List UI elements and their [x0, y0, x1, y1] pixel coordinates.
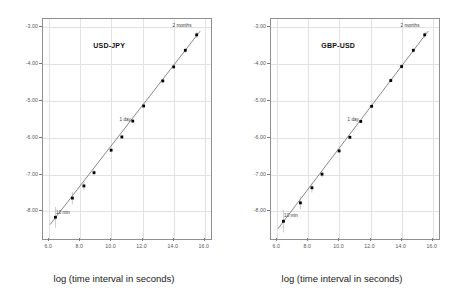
gridline-horizontal [271, 101, 439, 102]
y-tick-mark [267, 174, 270, 175]
data-point-marker [389, 79, 392, 82]
gridline-vertical [49, 19, 50, 239]
panel-title-gbp-usd: GBP-USD [321, 42, 355, 49]
y-tick-label: -3.00 [14, 23, 38, 29]
y-tick-mark [267, 100, 270, 101]
x-tick-mark [432, 238, 433, 241]
data-point-marker [71, 197, 74, 200]
y-tick-mark [39, 210, 42, 211]
x-axis-title-gbp-usd: log (time interval in seconds) [228, 273, 456, 284]
y-tick-label: -7.00 [14, 171, 38, 177]
y-tick-mark [39, 100, 42, 101]
gridline-horizontal [43, 101, 211, 102]
annotation-label: 10 min [284, 212, 298, 217]
y-tick-label: -8.00 [14, 207, 38, 213]
y-tick-label: -3.00 [242, 23, 266, 29]
x-tick-mark [48, 238, 49, 241]
gridline-vertical [205, 19, 206, 239]
gridline-horizontal [271, 138, 439, 139]
data-point-marker [83, 185, 86, 188]
x-tick-label: 14.0 [395, 243, 406, 249]
x-tick-label: 16.0 [199, 243, 210, 249]
annotation-label: 1 day [348, 117, 359, 122]
data-point-marker [282, 220, 285, 223]
gridline-vertical [80, 19, 81, 239]
gridline-horizontal [43, 175, 211, 176]
panel-title-usd-jpy: USD-JPY [93, 42, 125, 49]
data-point-marker [195, 33, 198, 36]
y-tick-mark [39, 26, 42, 27]
fit-line [50, 31, 200, 224]
y-tick-mark [39, 174, 42, 175]
gridline-vertical [143, 19, 144, 239]
data-series-layer [43, 19, 211, 239]
data-point-marker [54, 216, 57, 219]
data-series-layer [271, 19, 439, 239]
y-tick-label: -4.00 [14, 60, 38, 66]
data-point-marker [359, 120, 362, 123]
gridline-vertical [111, 19, 112, 239]
y-tick-label: -4.00 [242, 60, 266, 66]
y-tick-label: -6.00 [242, 134, 266, 140]
data-point-marker [423, 33, 426, 36]
y-tick-label: -7.00 [242, 171, 266, 177]
x-tick-label: 8.0 [76, 243, 84, 249]
x-tick-mark [173, 238, 174, 241]
x-tick-label: 6.0 [44, 243, 52, 249]
y-tick-mark [267, 63, 270, 64]
gridline-vertical [371, 19, 372, 239]
data-point-marker [161, 80, 164, 83]
x-tick-label: 12.0 [364, 243, 375, 249]
annotation-label: 10 min [56, 209, 70, 214]
y-tick-mark [39, 63, 42, 64]
data-point-marker [184, 49, 187, 52]
chart-panel-usd-jpy: USD-JPY log (time interval in seconds) 6… [0, 0, 228, 292]
chart-panel-gbp-usd: GBP-USD log (time interval in seconds) 6… [228, 0, 456, 292]
gridline-vertical [174, 19, 175, 239]
gridline-horizontal [43, 138, 211, 139]
figure-canvas: USD-JPY log (time interval in seconds) 6… [0, 0, 456, 292]
data-point-marker [311, 186, 314, 189]
gridline-horizontal [43, 64, 211, 65]
y-tick-mark [39, 137, 42, 138]
y-tick-label: -8.00 [242, 207, 266, 213]
x-tick-mark [142, 238, 143, 241]
fit-line [278, 31, 428, 229]
x-tick-mark [276, 238, 277, 241]
x-tick-mark [307, 238, 308, 241]
x-tick-label: 12.0 [136, 243, 147, 249]
x-tick-mark [79, 238, 80, 241]
y-tick-label: -6.00 [14, 134, 38, 140]
x-tick-label: 8.0 [304, 243, 312, 249]
plot-area-usd-jpy [42, 18, 212, 240]
gridline-vertical [308, 19, 309, 239]
annotation-label: 2 months [173, 23, 192, 28]
data-point-marker [299, 201, 302, 204]
y-tick-mark [267, 137, 270, 138]
y-tick-label: -5.00 [14, 97, 38, 103]
x-tick-mark [338, 238, 339, 241]
data-point-marker [131, 120, 134, 123]
annotation-label: 2 months [401, 23, 420, 28]
x-tick-mark [110, 238, 111, 241]
x-axis-title-usd-jpy: log (time interval in seconds) [0, 273, 228, 284]
x-tick-label: 10.0 [105, 243, 116, 249]
x-tick-label: 6.0 [272, 243, 280, 249]
x-tick-mark [370, 238, 371, 241]
x-tick-mark [204, 238, 205, 241]
x-tick-label: 10.0 [333, 243, 344, 249]
gridline-vertical [433, 19, 434, 239]
x-tick-label: 16.0 [427, 243, 438, 249]
data-point-marker [412, 49, 415, 52]
y-tick-mark [267, 26, 270, 27]
plot-area-gbp-usd [270, 18, 440, 240]
gridline-horizontal [271, 175, 439, 176]
gridline-vertical [277, 19, 278, 239]
x-tick-mark [401, 238, 402, 241]
y-tick-mark [267, 210, 270, 211]
annotation-label: 1 day [120, 116, 131, 121]
gridline-vertical [339, 19, 340, 239]
y-tick-label: -5.00 [242, 97, 266, 103]
x-tick-label: 14.0 [167, 243, 178, 249]
gridline-horizontal [271, 64, 439, 65]
